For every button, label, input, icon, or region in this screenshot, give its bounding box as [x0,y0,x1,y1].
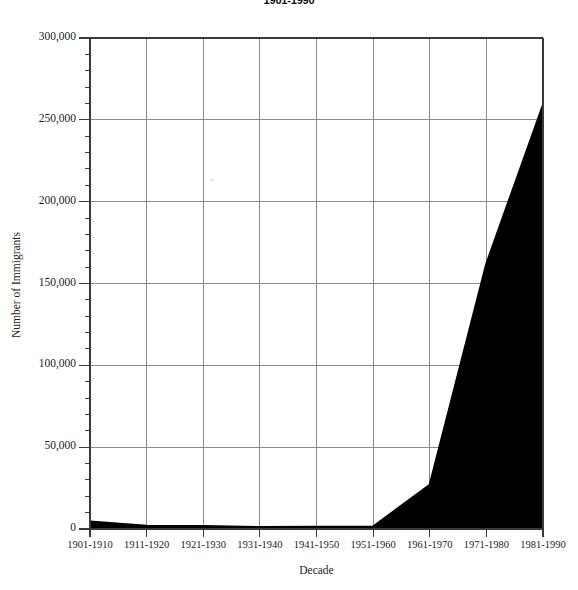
y-axis-tick-label: 100,000 [6,357,76,369]
y-axis-tick-label: 150,000 [6,276,76,288]
x-axis-ticks [90,529,543,537]
y-axis-tick-label: 50,000 [6,439,76,451]
plot-area [0,0,578,590]
y-axis-tick-label: 250,000 [6,112,76,124]
chart-figure: 1901-1990 Number of Immigrants Decade 05… [0,0,578,590]
x-axis-tick-label: 1981-1990 [508,539,578,550]
scan-speck [211,179,213,181]
y-axis-tick-label: 300,000 [6,30,76,42]
y-axis-tick-label: 0 [6,521,76,533]
y-axis-tick-label: 200,000 [6,194,76,206]
